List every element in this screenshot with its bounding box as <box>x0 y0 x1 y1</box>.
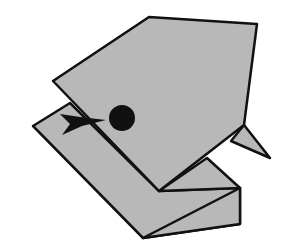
origami-diagram <box>0 0 285 247</box>
eye <box>109 105 135 131</box>
